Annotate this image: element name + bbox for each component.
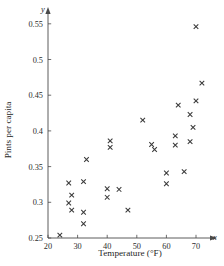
cross-marker-icon xyxy=(188,139,193,144)
cross-marker-icon xyxy=(66,181,71,186)
cross-marker-icon xyxy=(191,125,196,130)
data-point xyxy=(188,112,193,117)
data-point xyxy=(194,24,199,29)
data-point xyxy=(69,208,74,213)
cross-marker-icon xyxy=(105,195,110,200)
data-point xyxy=(188,139,193,144)
x-tick-label-20: 20 xyxy=(44,242,52,251)
x-axis-variable-label: x xyxy=(212,232,217,242)
y-axis-title: Pints per capita xyxy=(3,102,13,159)
y-tick-label-0.4: 0.4 xyxy=(33,127,44,136)
y-tick-label-0.45: 0.45 xyxy=(28,91,43,100)
data-point xyxy=(81,210,86,215)
y-tick-label-0.25: 0.25 xyxy=(28,234,43,243)
y-tick-labels: 0.250.30.350.40.450.50.55 xyxy=(28,20,43,243)
cross-marker-icon xyxy=(149,142,154,147)
scatter-plot-figure: 203040506070 0.250.30.350.40.450.50.55 x… xyxy=(0,0,224,266)
y-tick-label-0.55: 0.55 xyxy=(28,20,43,29)
cross-marker-icon xyxy=(164,181,169,186)
cross-marker-icon xyxy=(173,134,178,139)
cross-marker-icon xyxy=(188,112,193,117)
cross-marker-icon xyxy=(152,147,157,152)
axes-group xyxy=(45,7,217,241)
data-point xyxy=(164,181,169,186)
cross-marker-icon xyxy=(108,139,113,144)
data-point xyxy=(140,118,145,123)
data-point xyxy=(194,99,199,104)
data-point xyxy=(84,157,89,162)
data-point xyxy=(69,193,74,198)
cross-marker-icon xyxy=(140,118,145,123)
x-tick-label-30: 30 xyxy=(73,242,81,251)
cross-marker-icon xyxy=(176,103,181,108)
y-tick-label-0.5: 0.5 xyxy=(33,56,43,65)
cross-marker-icon xyxy=(126,208,131,213)
data-point xyxy=(176,103,181,108)
cross-marker-icon xyxy=(117,187,122,192)
plot-canvas: 203040506070 0.250.30.350.40.450.50.55 x… xyxy=(0,0,224,266)
cross-marker-icon xyxy=(66,201,71,206)
cross-marker-icon xyxy=(58,233,63,238)
x-tick-label-70: 70 xyxy=(192,242,200,251)
cross-marker-icon xyxy=(81,179,86,184)
data-points-group xyxy=(58,24,205,237)
x-tick-label-60: 60 xyxy=(162,242,170,251)
cross-marker-icon xyxy=(69,208,74,213)
data-point xyxy=(149,142,154,147)
cross-marker-icon xyxy=(84,157,89,162)
data-point xyxy=(182,169,187,174)
ticks-group xyxy=(48,24,196,238)
data-point xyxy=(191,125,196,130)
data-point xyxy=(58,233,63,238)
y-tick-label-0.35: 0.35 xyxy=(28,163,43,172)
data-point xyxy=(200,81,205,86)
data-point xyxy=(164,171,169,176)
cross-marker-icon xyxy=(194,24,199,29)
data-point xyxy=(66,201,71,206)
cross-marker-icon xyxy=(81,210,86,215)
cross-marker-icon xyxy=(69,193,74,198)
data-point xyxy=(173,134,178,139)
y-axis-arrow-icon xyxy=(45,7,50,14)
data-point xyxy=(152,147,157,152)
y-tick-label-0.3: 0.3 xyxy=(33,198,43,207)
data-point xyxy=(108,145,113,150)
cross-marker-icon xyxy=(105,186,110,191)
data-point xyxy=(126,208,131,213)
y-axis-variable-label: y xyxy=(40,4,45,14)
cross-marker-icon xyxy=(182,169,187,174)
cross-marker-icon xyxy=(164,171,169,176)
cross-marker-icon xyxy=(194,99,199,104)
data-point xyxy=(105,186,110,191)
cross-marker-icon xyxy=(108,145,113,150)
cross-marker-icon xyxy=(200,81,205,86)
data-point xyxy=(108,139,113,144)
data-point xyxy=(173,143,178,148)
data-point xyxy=(105,195,110,200)
cross-marker-icon xyxy=(81,221,86,226)
data-point xyxy=(117,187,122,192)
data-point xyxy=(81,221,86,226)
data-point xyxy=(81,179,86,184)
data-point xyxy=(66,181,71,186)
x-axis-title: Temperature (°F) xyxy=(98,248,162,258)
cross-marker-icon xyxy=(173,143,178,148)
